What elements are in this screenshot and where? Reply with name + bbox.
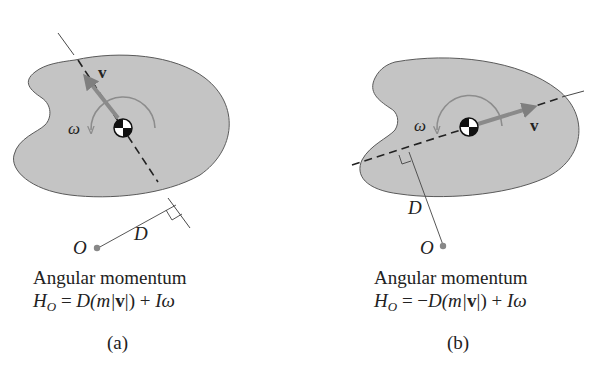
omega-label: ω (414, 116, 426, 135)
line-of-action-outer (562, 91, 584, 97)
velocity-label: v (98, 63, 107, 82)
panel-b-title: Angular momentum (374, 267, 528, 288)
distance-label: D (407, 197, 422, 218)
point-O (440, 243, 446, 249)
panel-a-caption: (a) (107, 332, 128, 354)
line-of-action-outer (58, 33, 74, 55)
point-O-label: O (420, 237, 434, 258)
point-O (94, 245, 100, 251)
omega-label: ω (68, 119, 80, 138)
distance-label: D (133, 223, 148, 244)
extended-line (168, 198, 190, 228)
center-of-mass-icon (460, 118, 478, 136)
panel-a-formula: HO = D(m|v|) + Iω (32, 290, 175, 314)
right-angle-marker (166, 210, 182, 220)
center-of-mass-icon (114, 119, 132, 137)
panel-b-formula: HO = −D(m|v|) + Iω (373, 290, 527, 314)
point-O-label: O (73, 237, 87, 258)
panel-a: v ω D O Angular momentum HO = D(m|v|) + … (13, 33, 229, 354)
diagram-canvas: v ω D O Angular momentum HO = D(m|v|) + … (0, 0, 594, 379)
panel-a-title: Angular momentum (33, 267, 187, 288)
panel-b: v ω D O Angular momentum HO = −D(m|v|) +… (352, 58, 584, 354)
velocity-label: v (530, 116, 539, 135)
panel-b-caption: (b) (447, 332, 469, 354)
